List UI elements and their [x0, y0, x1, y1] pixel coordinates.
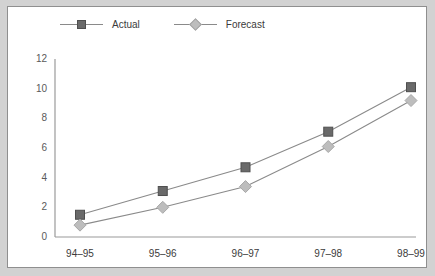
data-point-forecast-3 — [322, 141, 334, 153]
x-tick-label: 98–99 — [381, 248, 435, 259]
data-point-actual-2 — [241, 163, 250, 172]
chart-series — [74, 83, 417, 231]
x-tick-label: 95–96 — [133, 248, 193, 259]
line-chart-plot — [8, 7, 426, 267]
y-tick-label: 8 — [25, 112, 47, 123]
data-point-actual-0 — [76, 210, 85, 219]
y-tick-label: 4 — [25, 172, 47, 183]
y-tick-label: 2 — [25, 201, 47, 212]
x-tick-label: 94–95 — [50, 248, 110, 259]
data-point-forecast-0 — [74, 219, 86, 231]
y-tick-label: 0 — [25, 231, 47, 242]
x-tick-label: 97–98 — [298, 248, 358, 259]
chart-axes — [55, 59, 416, 237]
y-tick-label: 10 — [25, 83, 47, 94]
data-point-forecast-2 — [240, 181, 252, 193]
chart-frame: Actual Forecast 024681012 94–9595–9696–9… — [7, 6, 427, 268]
data-point-actual-1 — [158, 187, 167, 196]
data-point-forecast-4 — [405, 95, 417, 107]
y-tick-label: 12 — [25, 53, 47, 64]
data-point-actual-3 — [324, 127, 333, 136]
data-point-forecast-1 — [157, 201, 169, 213]
y-tick-label: 6 — [25, 142, 47, 153]
x-tick-label: 96–97 — [216, 248, 276, 259]
series-line-actual — [80, 87, 411, 215]
data-point-actual-4 — [407, 83, 416, 92]
